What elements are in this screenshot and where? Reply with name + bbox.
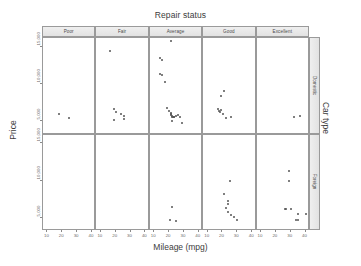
data-point [299,115,301,117]
strip-label-fair: Fair [95,26,148,37]
x-tick-mark [91,230,92,232]
x-tick-label: 10 [258,233,263,238]
strip-label-text: Domestic [312,76,317,95]
data-point [285,208,287,210]
data-point [230,214,232,216]
data-point [68,117,70,119]
x-tick-mark [275,230,276,232]
data-point [164,81,166,83]
data-point [161,74,163,76]
x-tick-mark [236,230,237,232]
x-tick-mark [290,230,291,232]
strip-label-foreign: Foreign [309,134,320,231]
data-point [166,107,168,109]
x-tick-mark [260,230,261,232]
x-tick-label: 20 [112,233,117,238]
data-point [227,200,229,202]
data-point [230,116,232,118]
y-tick-mark [40,83,42,84]
data-point [223,193,225,195]
x-tick-label: 10 [97,233,102,238]
data-point [288,180,290,182]
data-point [293,116,295,118]
y-tick-mark [40,46,42,47]
data-point [223,90,225,92]
y-axis-label: Price [8,120,18,139]
data-point [170,40,172,42]
data-point [171,206,173,208]
strip-label-good: Good [202,26,255,37]
x-tick-mark [100,230,101,232]
panel-average-domestic [149,37,202,134]
x-tick-label: 40 [195,233,200,238]
x-tick-label: 30 [234,233,239,238]
x-tick-label: 40 [302,233,307,238]
x-axis-label: Mileage (mpg) [0,242,361,252]
data-point [161,59,163,61]
x-tick-mark [198,230,199,232]
panel-poor-domestic [42,37,95,134]
x-tick-label: 30 [180,233,185,238]
data-point [305,213,307,215]
data-point [229,180,231,182]
x-tick-mark [305,230,306,232]
y-tick-mark [40,120,42,121]
x-tick-mark [46,230,47,232]
x-tick-mark [144,230,145,232]
y-tick-mark [40,217,42,218]
strip-label-text: Foreign [312,174,317,190]
x-tick-label: 10 [151,233,156,238]
data-point [120,113,122,115]
data-point [123,118,125,120]
panel-excellent-domestic [256,37,309,134]
x-tick-mark [251,230,252,232]
x-tick-label: 30 [287,233,292,238]
x-tick-mark [76,230,77,232]
strip-label-domestic: Domestic [309,37,320,134]
strip-label-poor: Poor [42,26,95,37]
data-point [181,122,183,124]
x-tick-label: 40 [88,233,93,238]
data-point [109,50,111,52]
data-point [169,219,171,221]
x-tick-label: 30 [127,233,132,238]
panel-fair-foreign [95,134,148,231]
x-tick-label: 30 [74,233,79,238]
panel-excellent-foreign [256,134,309,231]
x-tick-label: 20 [219,233,224,238]
x-tick-mark [168,230,169,232]
data-point [225,207,227,209]
data-point [58,113,60,115]
data-point [233,216,235,218]
data-point [113,119,115,121]
chart-title: Repair status [0,10,361,20]
data-point [290,208,292,210]
data-point [227,203,229,205]
x-tick-label: 10 [204,233,209,238]
x-tick-label: 10 [44,233,49,238]
data-point [123,115,125,117]
data-point [225,117,227,119]
strip-label-average: Average [149,26,202,37]
x-tick-mark [153,230,154,232]
data-point [297,219,299,221]
data-point [171,120,173,122]
right-strip-outer-label: Car type [321,102,331,134]
x-tick-mark [183,230,184,232]
panel-fair-domestic [95,37,148,134]
panel-good-foreign [202,134,255,231]
panel-good-domestic [202,37,255,134]
x-tick-label: 40 [249,233,254,238]
data-point [288,170,290,172]
x-tick-label: 20 [59,233,64,238]
panel-poor-foreign [42,134,95,231]
data-point [219,111,221,113]
data-point [115,111,117,113]
data-point [175,220,177,222]
data-point [220,95,222,97]
strip-label-excellent: Excellent [256,26,309,37]
x-tick-mark [221,230,222,232]
y-tick-mark [40,180,42,181]
x-tick-label: 40 [142,233,147,238]
data-point [222,113,224,115]
